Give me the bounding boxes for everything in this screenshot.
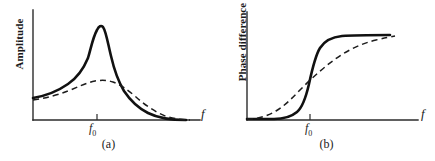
panel-a-f0-tick-label: f0 (89, 121, 96, 137)
figure-root: Amplitude f f0 (a) Phase difference f f0… (0, 0, 435, 161)
panel-b-caption: (b) (218, 137, 435, 152)
panel-b-f0-tick-label: f0 (305, 121, 312, 137)
panel-a-y-axis-label: Amplitude (13, 9, 25, 79)
panel-b-y-axis-label: Phase difference (236, 0, 248, 90)
panel-b-x-axis-label: f (421, 106, 425, 122)
panel-a-curve-broad-resonance (33, 80, 190, 120)
panel-a-caption: (a) (0, 137, 217, 152)
panel-b-phase-difference: Phase difference f f0 (b) (218, 0, 435, 161)
panel-b-curve-steep-phase (247, 35, 390, 119)
panel-a-curve-sharp-resonance (33, 26, 186, 120)
panel-a-x-axis-label: f (201, 106, 205, 122)
panel-a-amplitude: Amplitude f f0 (a) (0, 0, 217, 161)
